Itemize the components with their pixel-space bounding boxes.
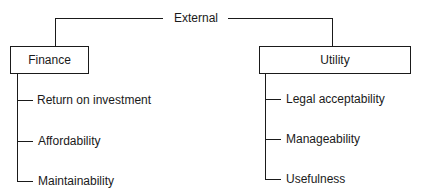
utility-node-label: Utility xyxy=(320,53,349,67)
utility-child-legal-acceptability: Legal acceptability xyxy=(286,92,385,106)
utility-node: Utility xyxy=(259,46,411,74)
utility-children-spine xyxy=(265,74,266,180)
finance-children-spine xyxy=(17,74,18,182)
finance-drop-line xyxy=(55,18,56,46)
utility-child-manageability: Manageability xyxy=(286,132,360,146)
root-connector-right xyxy=(228,18,333,19)
finance-child-maintainability: Maintainability xyxy=(38,174,114,188)
finance-child-connector xyxy=(17,181,33,182)
utility-child-usefulness: Usefulness xyxy=(286,172,345,186)
finance-child-affordability: Affordability xyxy=(38,134,100,148)
finance-child-return-on-investment: Return on investment xyxy=(37,93,151,107)
root-label-external: External xyxy=(174,11,218,25)
finance-node-label: Finance xyxy=(28,53,71,67)
finance-node: Finance xyxy=(10,46,89,74)
utility-drop-line xyxy=(332,18,333,46)
finance-child-connector xyxy=(17,100,33,101)
finance-child-connector xyxy=(17,141,33,142)
root-connector-left xyxy=(55,18,163,19)
utility-child-connector xyxy=(265,179,281,180)
utility-child-connector xyxy=(265,99,281,100)
utility-child-connector xyxy=(265,139,281,140)
